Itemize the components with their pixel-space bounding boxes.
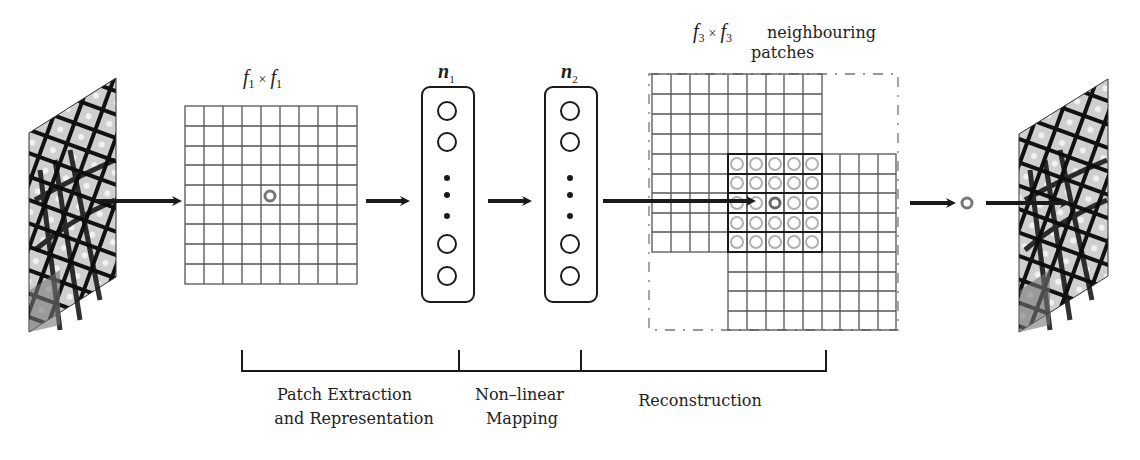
ellipsis-dot-icon xyxy=(567,213,573,219)
neuron-icon xyxy=(561,102,579,120)
ellipsis-dot-icon xyxy=(567,192,573,198)
layer1-label: n1 xyxy=(438,60,455,85)
stage-label-nonlinear-mapping: Non–linear Mapping xyxy=(475,385,569,428)
ellipsis-dot-icon xyxy=(567,175,573,181)
filter3-label: f3×f3 xyxy=(693,20,732,45)
neuron-icon xyxy=(561,267,579,285)
neuron-icon xyxy=(561,133,579,151)
neuron-icon xyxy=(438,102,456,120)
neuron-icon xyxy=(438,235,456,253)
layer1-feature-box xyxy=(422,87,474,302)
patch-grid-top-left xyxy=(652,74,822,252)
ellipsis-dot-icon xyxy=(444,192,450,198)
input-image xyxy=(29,78,116,332)
layer2-feature-box xyxy=(545,87,597,302)
neuron-icon xyxy=(561,235,579,253)
stage-bracket xyxy=(242,350,826,371)
stage-label-reconstruction: Reconstruction xyxy=(638,391,761,410)
stage-label-patch-extraction: Patch Extraction and Representation xyxy=(274,385,433,428)
filter3-caption-line1: neighbouring xyxy=(767,23,876,42)
ellipsis-dot-icon xyxy=(444,213,450,219)
output-image xyxy=(1019,79,1108,332)
filter1-label: f1×f1 xyxy=(243,66,282,91)
srcnn-diagram: f1×f1 n1 n2 f3×f3 xyxy=(0,0,1140,460)
filter1-grid xyxy=(185,106,357,284)
center-pixel-icon xyxy=(770,198,780,208)
pixel-icon xyxy=(265,191,275,201)
neuron-icon xyxy=(438,267,456,285)
patch-grid-bottom-right xyxy=(728,154,896,330)
ellipsis-dot-icon xyxy=(444,175,450,181)
filter3-caption-line2: patches xyxy=(751,43,814,62)
output-pixel-icon xyxy=(962,198,972,208)
layer2-label: n2 xyxy=(561,60,578,85)
neuron-icon xyxy=(438,133,456,151)
